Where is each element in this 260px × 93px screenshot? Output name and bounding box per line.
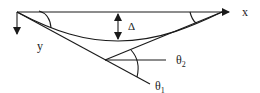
intersection-angle-arc bbox=[131, 50, 138, 77]
right-tangent-line bbox=[105, 12, 222, 60]
theta2-label: θ2 bbox=[176, 53, 186, 69]
y-axis-label: y bbox=[37, 39, 43, 53]
right-angle-arc bbox=[190, 12, 196, 23]
x-axis-label: x bbox=[242, 5, 248, 19]
theta1-label: θ1 bbox=[155, 79, 165, 93]
theta1-subscript: 1 bbox=[161, 86, 165, 93]
beam-deflection-diagram: x y Δ θ2 θ1 bbox=[0, 0, 260, 93]
theta2-subscript: 2 bbox=[182, 60, 186, 69]
deflection-label: Δ bbox=[128, 20, 135, 32]
